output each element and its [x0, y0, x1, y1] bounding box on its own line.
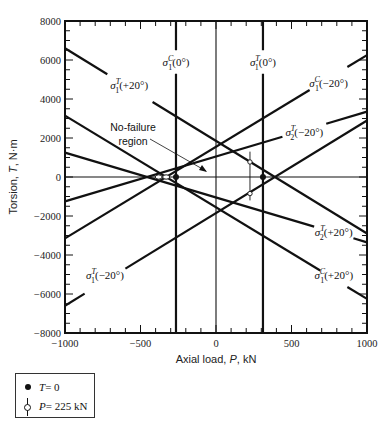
y-tick-label: 2000 — [40, 133, 61, 144]
series-label: σC1(0°) — [162, 54, 189, 72]
p225-circle — [248, 191, 252, 195]
series-line — [125, 120, 367, 268]
x-tick-label: 500 — [284, 338, 300, 349]
series-label: σC1(+20°) — [314, 267, 353, 285]
open-circle-line-icon — [22, 398, 34, 414]
series-label: σC1(−20°) — [309, 75, 348, 93]
t-zero-dot — [260, 174, 266, 180]
legend-var: P — [39, 400, 46, 412]
y-tick-label: 4000 — [40, 94, 61, 105]
y-tick-label: −2000 — [34, 211, 61, 222]
x-axis-title: Axial load, P, kN — [176, 353, 257, 365]
arrowhead-icon — [199, 165, 207, 172]
no-failure-label-line2: region — [118, 135, 147, 147]
x-tick-label: 1000 — [357, 338, 378, 349]
failure-envelope-chart: −1000−50005001000−8000−6000−4000−2000020… — [0, 0, 388, 425]
series-line — [347, 55, 367, 67]
series-label: σT2(−20°) — [285, 124, 323, 142]
legend-label: = 0 — [45, 381, 59, 393]
y-axis-title: Torsion, T, N·m — [7, 139, 19, 214]
series-line — [353, 238, 367, 242]
y-tick-label: −4000 — [34, 250, 61, 261]
series-label: σT2(+20°) — [315, 224, 353, 242]
y-tick-label: 6000 — [40, 55, 61, 66]
x-tick-label: 0 — [213, 338, 218, 349]
x-tick-label: −1000 — [52, 338, 79, 349]
series-label: σT1(0°) — [250, 54, 276, 72]
no-failure-arrow — [150, 139, 206, 171]
series-line — [326, 112, 367, 124]
legend-item-t-zero: T = 0 — [22, 379, 60, 395]
tick-labels: −1000−50005001000−8000−6000−4000−2000020… — [34, 16, 377, 349]
no-failure-label-line1: No-failure — [110, 121, 156, 133]
y-tick-label: 8000 — [40, 16, 61, 27]
series-line — [65, 294, 85, 306]
p225-circle — [248, 160, 252, 164]
legend-label: = 225 kN — [46, 400, 88, 412]
series-line — [65, 116, 320, 271]
filled-dot-icon — [22, 379, 34, 395]
series-line — [347, 287, 367, 299]
t-zero-dot — [173, 174, 179, 180]
intersection-circle — [155, 175, 162, 179]
series-label: σT1(+20°) — [110, 77, 148, 95]
x-tick-label: −500 — [130, 338, 152, 349]
intersection-circle — [163, 175, 170, 179]
legend-item-p-225: P = 225 kN — [22, 398, 87, 414]
y-tick-label: 0 — [56, 172, 61, 183]
y-tick-label: −8000 — [34, 328, 61, 339]
reference-lines — [65, 21, 367, 333]
series-label: σT1(−20°) — [86, 267, 124, 285]
series-line — [65, 48, 107, 74]
legend: T = 0 P = 225 kN — [15, 373, 95, 418]
y-tick-label: −6000 — [34, 289, 61, 300]
